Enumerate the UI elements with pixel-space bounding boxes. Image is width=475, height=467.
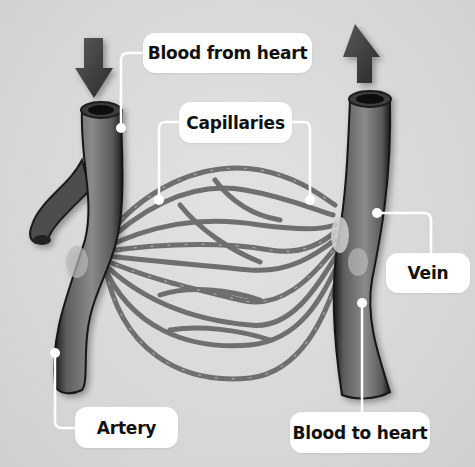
label-capillaries: Capillaries (179, 102, 292, 143)
capillary-network (100, 168, 340, 379)
dot-capillaries-right (305, 195, 315, 205)
dot-blood-to-heart (357, 298, 367, 308)
label-vein: Vein (386, 253, 470, 293)
dot-blood-from-heart (116, 123, 126, 133)
label-artery: Artery (75, 407, 178, 448)
up-arrow-icon (343, 24, 380, 83)
dot-artery (50, 348, 60, 358)
artery-vessel (30, 102, 123, 393)
label-blood-to-heart: Blood to heart (290, 412, 430, 453)
down-arrow-icon (75, 38, 113, 98)
dot-vein (372, 208, 382, 218)
label-blood-from-heart: Blood from heart (143, 33, 312, 73)
circulation-diagram: Blood from heart Capillaries Vein Artery… (0, 0, 475, 467)
dot-capillaries-left (154, 195, 164, 205)
